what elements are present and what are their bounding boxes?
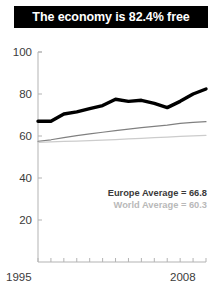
y-tick-label-20: 20 (2, 215, 32, 227)
annotation-europe-average: Europe Average = 66.8 (108, 188, 207, 198)
y-tick-label-80: 80 (2, 89, 32, 101)
y-tick-label-60: 60 (2, 131, 32, 143)
chart-container: The economy is 82.4% free 100 80 60 40 2… (0, 0, 217, 297)
series-line-europe-average (38, 122, 206, 142)
y-tick-label-100: 100 (2, 47, 32, 59)
chart-plot-svg (0, 0, 217, 297)
series-line-country (38, 89, 206, 121)
y-tick-label-40: 40 (2, 173, 32, 185)
plot-area (0, 0, 217, 297)
x-tick-label-start: 1995 (6, 272, 32, 284)
x-tick-label-end: 2008 (170, 272, 196, 284)
series-line-world-average (38, 135, 206, 142)
annotation-world-average: World Average = 60.3 (114, 200, 207, 210)
